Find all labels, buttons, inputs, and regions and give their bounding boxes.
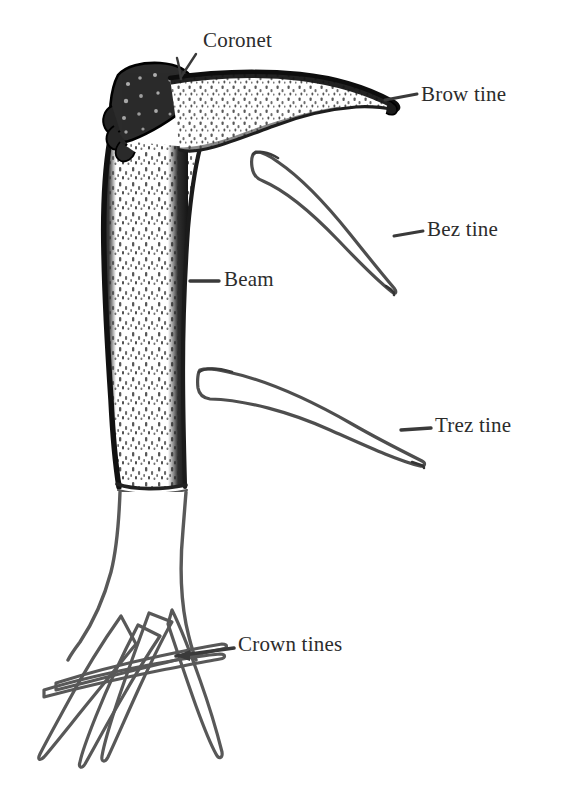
antler-illustration [0, 0, 571, 805]
label-crown-tines: Crown tines [238, 634, 342, 655]
label-trez-tine: Trez tine [435, 415, 511, 436]
antler-beam-shape [100, 130, 200, 495]
label-coronet: Coronet [203, 30, 272, 51]
label-bez-tine: Bez tine [427, 219, 498, 240]
leader-line-trez-tine [401, 428, 431, 430]
label-beam: Beam [224, 269, 274, 290]
label-brow-tine: Brow tine [421, 84, 506, 105]
antler-diagram: Coronet Brow tine Bez tine Trez tine Bea… [0, 0, 571, 805]
